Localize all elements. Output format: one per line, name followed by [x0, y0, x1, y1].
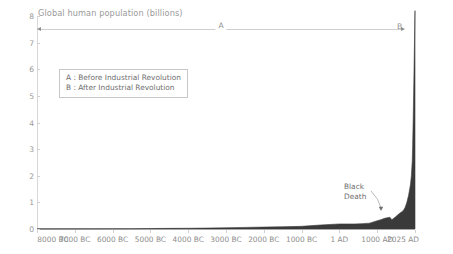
- x-tick-label: 4000 BC: [173, 235, 204, 244]
- y-tick-mark: [37, 149, 40, 150]
- x-tick-mark: [150, 230, 151, 233]
- span-b-label: B: [397, 22, 402, 31]
- x-tick-mark: [37, 230, 38, 233]
- y-tick-mark: [37, 43, 40, 44]
- y-tick-label: 4: [12, 118, 34, 127]
- x-tick-mark: [339, 230, 340, 233]
- y-tick-label: 5: [12, 91, 34, 100]
- y-tick-mark: [37, 16, 40, 17]
- x-tick-mark: [264, 230, 265, 233]
- x-tick-mark: [415, 230, 416, 233]
- span-a-label: A: [216, 21, 227, 30]
- legend-item-b: B : After Industrial Revolution: [66, 83, 181, 93]
- black-death-line-2: Death: [344, 192, 366, 202]
- black-death-annotation: Black Death: [344, 182, 366, 201]
- x-tick-label: 2000 BC: [248, 235, 279, 244]
- y-axis-tick-labels: 012345678: [6, 0, 34, 254]
- x-tick-label: 3000 BC: [210, 235, 241, 244]
- y-tick-label: 7: [12, 38, 34, 47]
- y-tick-mark: [37, 69, 40, 70]
- black-death-leader-arrow-icon: [370, 190, 390, 212]
- legend: A : Before Industrial Revolution B : Aft…: [59, 69, 188, 98]
- y-tick-mark: [37, 96, 40, 97]
- y-tick-label: 2: [12, 171, 34, 180]
- y-tick-label: 8: [12, 12, 34, 21]
- y-tick-mark: [37, 176, 40, 177]
- y-tick-label: 0: [12, 225, 34, 234]
- y-tick-label: 1: [12, 198, 34, 207]
- x-tick-label: 1000 BC: [286, 235, 317, 244]
- x-tick-mark: [113, 230, 114, 233]
- x-tick-label: 5000 BC: [135, 235, 166, 244]
- y-tick-label: 6: [12, 65, 34, 74]
- y-tick-mark: [37, 202, 40, 203]
- black-death-line-1: Black: [344, 182, 366, 192]
- x-tick-label: 2025 AD: [387, 235, 419, 244]
- population-chart: Global human population (billions) 01234…: [0, 0, 453, 254]
- x-tick-label: 1 AD: [330, 235, 348, 244]
- x-tick-mark: [377, 230, 378, 233]
- y-tick-label: 3: [12, 145, 34, 154]
- x-tick-mark: [226, 230, 227, 233]
- span-a-left-arrow-icon: [37, 27, 41, 31]
- x-tick-label: 7000 BC: [59, 235, 90, 244]
- y-tick-mark: [37, 123, 40, 124]
- x-tick-mark: [302, 230, 303, 233]
- x-tick-mark: [75, 230, 76, 233]
- x-tick-mark: [188, 230, 189, 233]
- legend-item-a: A : Before Industrial Revolution: [66, 73, 181, 83]
- x-tick-label: 6000 BC: [97, 235, 128, 244]
